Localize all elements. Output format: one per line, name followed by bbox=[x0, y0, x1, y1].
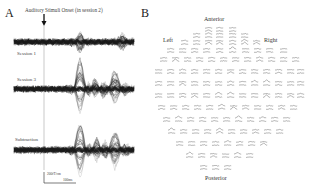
right-label: Right bbox=[264, 37, 277, 43]
onset-title: Auditory Stimuli Onset (in session 2) bbox=[25, 8, 103, 13]
scale-amplitude: 200fT/cm bbox=[47, 173, 61, 177]
session-3-traces bbox=[14, 58, 134, 114]
panel-a-letter: A bbox=[5, 7, 14, 19]
scale-time: 100ms bbox=[63, 179, 72, 183]
left-label: Left bbox=[163, 37, 173, 43]
sensor-layout bbox=[155, 27, 304, 169]
panel-b-letter: B bbox=[141, 7, 149, 19]
session-1-traces bbox=[14, 32, 134, 53]
anterior-label: Anterior bbox=[204, 16, 224, 22]
row-label-session-3: Session 3 bbox=[17, 77, 36, 82]
subtraction-traces bbox=[14, 125, 134, 177]
row-label-subtraction: Subtraction bbox=[15, 137, 38, 142]
row-label-session-1: Session 1 bbox=[17, 51, 36, 56]
figure-graphics bbox=[0, 0, 311, 194]
figure: A Auditory Stimuli Onset (in session 2) … bbox=[0, 0, 311, 194]
posterior-label: Posterior bbox=[205, 175, 227, 181]
down-arrow-icon bbox=[42, 14, 47, 26]
